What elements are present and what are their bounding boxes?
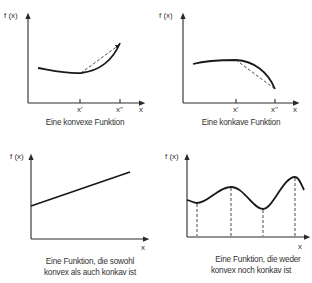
x-axis-label: x [298,242,302,251]
wavy-curve [187,177,304,209]
y-axis-label: f (x) [159,11,173,20]
y-axis-label: f (x) [165,152,179,161]
caption-line-2: konvex als auch konkav ist [44,268,137,277]
y-axis-label: f (x) [10,152,24,161]
convex-curve [38,43,120,73]
panel-convex: f (x) x' x'' x Eine konvexe Funktion [4,11,143,127]
caption-line-1: Eine Funktion, die sowohl [46,257,135,266]
tick-label-x2: x'' [116,105,124,114]
x-axis-label: x [141,243,145,252]
caption: Eine konkave Funktion [202,118,281,127]
concave-curve [193,60,275,89]
tick-label-x1: x' [77,105,83,114]
panel-concave: f (x) x' x'' x Eine konkave Funktion [159,11,297,127]
caption-line-1: Eine Funktion, die weder [215,255,301,264]
tick-label-x2: x'' [271,105,279,114]
convexity-diagram: f (x) x' x'' x Eine konvexe Funktion f (… [0,0,312,283]
x-axis-label: x [293,105,297,114]
chord-line [81,45,119,73]
x-axis-label: x [139,105,143,114]
panel-linear: f (x) x Eine Funktion, die sowohl konvex… [10,152,146,277]
caption-line-2: konvex noch konkav ist [211,266,292,275]
tick-label-x1: x' [233,105,239,114]
linear-function-line [31,172,130,206]
panel-wave: f (x) x Eine Funktion, die weder konvex … [165,152,307,275]
caption: Eine konvexe Funktion [46,118,125,127]
y-axis-label: f (x) [4,11,18,20]
chord-line [236,60,275,89]
